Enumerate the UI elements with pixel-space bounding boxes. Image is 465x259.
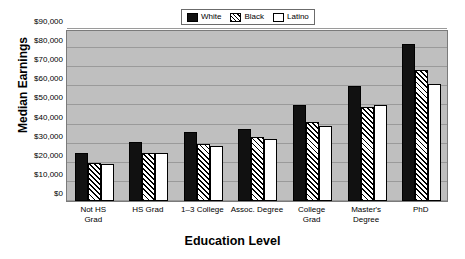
bar-black	[88, 163, 101, 201]
x-axis-tick-label: College Grad	[284, 205, 339, 224]
bar-latino	[101, 164, 114, 201]
bar-black	[361, 107, 374, 201]
bar-group	[231, 31, 286, 201]
legend-label-white: White	[201, 13, 221, 21]
x-axis-title: Education Level	[0, 234, 465, 248]
x-axis-ticks: Not HS GradHS Grad1–3 CollegeAssoc. Degr…	[66, 205, 448, 231]
bar-latino	[428, 84, 441, 201]
bar-latino	[210, 146, 223, 201]
bar-latino	[319, 126, 332, 201]
y-axis-tick-label: $90,000	[1, 17, 63, 26]
bar-white	[348, 86, 361, 201]
legend-item-latino: Latino	[273, 13, 309, 22]
bar-group	[285, 31, 340, 201]
y-axis-tick-label: $40,000	[1, 113, 63, 122]
bar-group	[122, 31, 177, 201]
legend-label-latino: Latino	[287, 13, 309, 21]
y-axis-ticks: $0$10,000$20,000$30,000$40,000$50,000$60…	[0, 30, 63, 202]
y-axis-tick-label: $50,000	[1, 93, 63, 102]
bar-white	[293, 105, 306, 202]
bar-latino	[155, 153, 168, 201]
gridline	[67, 28, 447, 29]
legend-item-black: Black	[230, 13, 264, 22]
bar-black	[197, 144, 210, 201]
bar-white	[402, 44, 415, 201]
bar-group	[340, 31, 395, 201]
chart-legend: White Black Latino	[181, 9, 315, 25]
bar-chart: White Black Latino Median Earnings $0$10…	[0, 0, 465, 259]
bar-black	[306, 122, 319, 201]
bar-black	[415, 70, 428, 201]
bar-latino	[374, 105, 387, 201]
bar-black	[251, 137, 264, 201]
bar-black	[142, 153, 155, 201]
empty-white-swatch-icon	[273, 13, 284, 22]
diagonal-hatch-swatch-icon	[230, 13, 241, 22]
y-axis-tick-label: $60,000	[1, 74, 63, 83]
legend-label-black: Black	[244, 13, 264, 21]
legend-item-white: White	[187, 13, 221, 22]
x-axis-tick-label: PhD	[393, 205, 448, 215]
y-axis-tick-label: $80,000	[1, 36, 63, 45]
y-axis-tick-label: $0	[1, 189, 63, 198]
bar-white	[184, 132, 197, 201]
y-axis-tick-label: $70,000	[1, 55, 63, 64]
x-axis-tick-label: HS Grad	[121, 205, 176, 215]
bar-white	[75, 153, 88, 201]
bar-group	[394, 31, 449, 201]
bar-latino	[264, 139, 277, 201]
x-axis-tick-label: Master's Degree	[339, 205, 394, 224]
x-axis-tick-label: Assoc. Degree	[230, 205, 285, 215]
bar-group	[176, 31, 231, 201]
bar-group	[67, 31, 122, 201]
y-axis-tick-label: $10,000	[1, 170, 63, 179]
y-axis-tick-label: $20,000	[1, 151, 63, 160]
solid-black-swatch-icon	[187, 13, 198, 22]
bar-white	[238, 129, 251, 201]
plot-area	[66, 30, 448, 202]
y-axis-tick-label: $30,000	[1, 132, 63, 141]
bar-white	[129, 142, 142, 201]
x-axis-tick-label: 1–3 College	[175, 205, 230, 215]
x-axis-tick-label: Not HS Grad	[66, 205, 121, 224]
